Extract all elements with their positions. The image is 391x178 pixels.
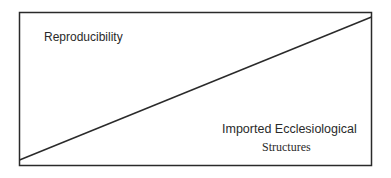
diagram-canvas [0,0,391,178]
label-structures: Structures [262,140,311,155]
label-imported-ecclesiological: Imported Ecclesiological [222,122,357,136]
label-reproducibility: Reproducibility [44,30,123,44]
